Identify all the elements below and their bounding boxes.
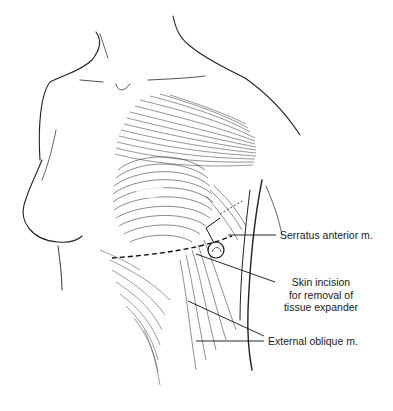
label-skin-incision-line-3: tissue expander: [271, 301, 371, 314]
oblique-leader-line-1: [188, 301, 264, 336]
label-serratus-anterior: Serratus anterior m.: [280, 229, 373, 242]
label-skin-incision-line-1: Skin incision: [271, 276, 371, 289]
label-external-oblique: External oblique m.: [268, 335, 358, 348]
torso-drawing: [0, 0, 393, 411]
label-skin-incision: Skin incision for removal of tissue expa…: [271, 276, 371, 314]
label-skin-incision-line-2: for removal of: [271, 289, 371, 302]
anatomical-illustration: Serratus anterior m. Skin incision for r…: [0, 0, 393, 411]
